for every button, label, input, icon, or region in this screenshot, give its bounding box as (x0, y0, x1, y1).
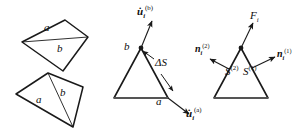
normal-1-subscript: i (283, 54, 285, 61)
figure-canvas: a b a b b a u̇i(b) u̇i(a) ΔS Fi ni(2) ni… (0, 0, 306, 137)
force-symbol: F (250, 9, 257, 21)
kinematics-vertex-label-a: a (156, 96, 162, 107)
force-subscript: i (257, 16, 259, 23)
normal-1-label: ni(1) (277, 48, 292, 62)
force-arrow (241, 23, 253, 48)
surface-1-superscript: (1) (249, 64, 257, 71)
traction-triangle-outline (214, 48, 268, 98)
upper-quadrilateral (22, 20, 88, 71)
traction-triangle (210, 23, 275, 98)
velocity-a-superscript: (a) (194, 106, 202, 113)
kinematics-vertex-label-b: b (124, 41, 130, 52)
upper-quad-label-b: b (57, 43, 63, 54)
normal-2-subscript: i (201, 49, 203, 56)
upper-quad-label-a: a (44, 22, 50, 33)
velocity-b-superscript: (b) (145, 4, 153, 11)
surface-2-superscript: (2) (231, 64, 239, 71)
velocity-b-label: u̇i(b) (137, 5, 153, 20)
normal-2-label: ni(2) (195, 43, 210, 57)
normal-2-superscript: (2) (202, 42, 209, 49)
surface-2-label: S(2) (225, 65, 238, 77)
delta-s-label: ΔS (155, 57, 167, 68)
force-label: Fi (250, 10, 259, 24)
lower-quad-label-a: a (36, 94, 42, 105)
velocity-b-subscript: i (143, 12, 145, 19)
lower-quadrilateral-outline (16, 73, 83, 127)
kinematics-triangle (114, 21, 189, 114)
surface-1-label: S(1) (243, 65, 256, 77)
velocity-a-label: u̇i(a) (186, 107, 202, 122)
normal-1-superscript: (1) (284, 47, 291, 54)
lower-quadrilateral (16, 73, 83, 127)
velocity-a-subscript: i (192, 114, 194, 121)
velocity-b-arrow (141, 21, 152, 48)
upper-quadrilateral-outline (22, 20, 88, 71)
lower-quad-label-b: b (60, 87, 66, 98)
